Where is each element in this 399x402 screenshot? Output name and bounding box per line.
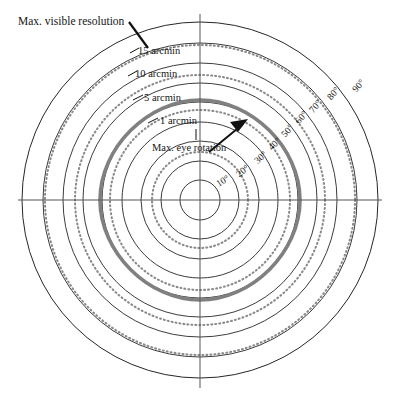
label-arcmin-15: 15 arcmin [138,46,180,57]
label-arcmin-10: 10 arcmin [135,69,177,80]
label-max-eye-rotation: Max. eye rotation [152,143,226,154]
axes-group [18,14,382,388]
label-max-visible-resolution: Max. visible resolution [18,16,124,28]
polar-diagram-svg [0,0,399,402]
leader-line-5-arcmin [133,95,143,100]
label-arcmin-1: 1 arcmin [160,116,197,127]
leader-line-1-arcmin [148,118,158,123]
arrow-head [230,119,248,132]
figure-canvas: Max. visible resolution 15 arcmin 10 arc… [0,0,399,402]
label-arcmin-5: 5 arcmin [144,93,181,104]
